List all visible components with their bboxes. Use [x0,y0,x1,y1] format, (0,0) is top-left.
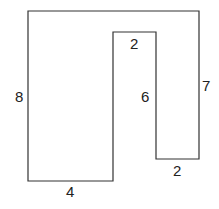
label-inner-top: 2 [130,36,138,51]
label-bottom-right: 2 [173,163,181,178]
label-right-side: 7 [202,78,210,93]
shape-outline [0,0,219,209]
label-inner-right-side: 6 [141,89,149,104]
label-bottom-left: 4 [66,184,74,199]
label-left-side: 8 [15,89,23,104]
